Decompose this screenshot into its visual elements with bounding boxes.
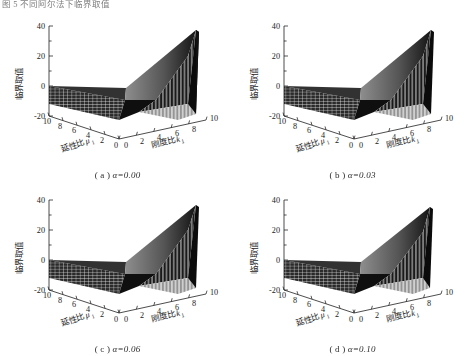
x-tick-6: 6 xyxy=(307,126,311,135)
y-axis-title-sub: 1 xyxy=(181,312,185,319)
x-axis-title-sub: 1 xyxy=(91,313,96,320)
y-tick-2: 2 xyxy=(375,137,379,146)
x-axis-title-sub: 1 xyxy=(91,139,96,146)
z-tick-40: 40 xyxy=(37,196,45,205)
y-tick-0: 0 xyxy=(359,315,363,324)
z-tick-40: 40 xyxy=(272,22,280,31)
caption-c-label: ( c ) xyxy=(95,344,111,354)
y-axis-title-group: 刚度比 k 1 xyxy=(150,133,185,152)
y-axis-title-sub: 1 xyxy=(416,312,420,319)
y-axis-title-group: 刚度比 k 1 xyxy=(385,133,420,152)
y-tick-0: 0 xyxy=(124,315,128,324)
x-tick-6: 6 xyxy=(72,300,76,309)
y-tick-8: 8 xyxy=(427,299,431,308)
surface-mesh-c xyxy=(49,205,199,294)
y-tick-10: 10 xyxy=(210,114,218,123)
surface-plot-d: 40 20 0 -20 临界取值 10 8 6 4 2 0 xyxy=(235,182,470,340)
z-tick-0: 0 xyxy=(41,82,45,91)
subplot-d: 40 20 0 -20 临界取值 10 8 6 4 2 0 xyxy=(235,182,470,356)
x-tick-0: 0 xyxy=(349,141,353,150)
x-tick-2: 2 xyxy=(100,310,104,319)
z-tick-0: 0 xyxy=(276,256,280,265)
caption-a-param: α=0.00 xyxy=(113,170,141,180)
caption-d: ( d ) α=0.10 xyxy=(235,344,470,354)
x-tick-8: 8 xyxy=(293,296,297,305)
x-tick-2: 2 xyxy=(335,136,339,145)
y-axis-title-sub: 1 xyxy=(181,138,185,145)
z-tick-20: 20 xyxy=(37,226,45,235)
x-tick-10: 10 xyxy=(43,291,51,300)
surface-plot-a: 40 20 0 -20 临界取值 10 8 6 4 2 xyxy=(0,8,235,166)
y-tick-0: 0 xyxy=(124,141,128,150)
caption-d-label: ( d ) xyxy=(329,344,345,354)
x-axis-title-sub: 1 xyxy=(326,139,331,146)
caption-d-param: α=0.10 xyxy=(348,344,376,354)
x-tick-0: 0 xyxy=(114,141,118,150)
subplot-b: 40 20 0 -20 临界取值 10 8 6 4 2 0 xyxy=(235,8,470,182)
surface-mesh-b xyxy=(284,30,434,120)
y-axis-title-group: 刚度比 k 1 xyxy=(150,307,185,326)
x-axis-title-sub: 1 xyxy=(326,313,331,320)
y-tick-2: 2 xyxy=(375,311,379,320)
y-tick-0: 0 xyxy=(359,141,363,150)
z-axis-title: 临界取值 xyxy=(14,241,24,274)
z-axis-title: 临界取值 xyxy=(14,67,24,100)
surface-mesh-a xyxy=(49,30,199,120)
x-tick-10: 10 xyxy=(278,291,286,300)
x-axis-title-cn: 延性比 xyxy=(295,311,321,328)
x-axis-title-cn: 延性比 xyxy=(295,137,321,154)
y-axis-title-cn: 刚度比 xyxy=(385,309,411,324)
x-axis-title-cn: 延性比 xyxy=(60,137,86,154)
y-tick-2: 2 xyxy=(140,311,144,320)
surface-plot-b: 40 20 0 -20 临界取值 10 8 6 4 2 0 xyxy=(235,8,470,166)
x-tick-6: 6 xyxy=(307,300,311,309)
subplot-a: 40 20 0 -20 临界取值 10 8 6 4 2 xyxy=(0,8,235,182)
y-tick-10: 10 xyxy=(445,114,453,123)
z-axis-title: 临界取值 xyxy=(249,67,259,100)
y-axis-title-sub: 1 xyxy=(416,138,420,145)
caption-b: ( b ) α=0.03 xyxy=(235,170,470,180)
z-tick-20: 20 xyxy=(37,52,45,61)
surface-plot-c: 40 20 0 -20 临界取值 10 8 6 4 2 0 xyxy=(0,182,235,340)
y-tick-10: 10 xyxy=(445,288,453,297)
caption-c-param: α=0.06 xyxy=(113,344,141,354)
y-axis-title-group: 刚度比 k 1 xyxy=(385,307,420,326)
x-tick-8: 8 xyxy=(58,122,62,131)
z-axis-title: 临界取值 xyxy=(249,241,259,274)
x-tick-10: 10 xyxy=(278,117,286,126)
x-tick-6: 6 xyxy=(72,126,76,135)
y-tick-8: 8 xyxy=(192,125,196,134)
y-axis-title-cn: 刚度比 xyxy=(150,135,176,150)
z-tick-40: 40 xyxy=(272,196,280,205)
caption-b-param: α=0.03 xyxy=(348,170,376,180)
x-tick-0: 0 xyxy=(114,315,118,324)
y-tick-2: 2 xyxy=(140,137,144,146)
surface-mesh-d xyxy=(284,207,433,294)
z-tick-40: 40 xyxy=(37,22,45,31)
y-tick-8: 8 xyxy=(427,125,431,134)
y-axis-title-cn: 刚度比 xyxy=(385,135,411,150)
z-tick-20: 20 xyxy=(272,226,280,235)
figure-page: 图 5 不同阿尔法下临界取值 xyxy=(0,0,470,356)
subplot-grid: 40 20 0 -20 临界取值 10 8 6 4 2 xyxy=(0,8,470,356)
x-tick-8: 8 xyxy=(58,296,62,305)
z-tick-0: 0 xyxy=(41,256,45,265)
x-axis-title-cn: 延性比 xyxy=(60,311,86,328)
x-tick-0: 0 xyxy=(349,315,353,324)
caption-b-label: ( b ) xyxy=(329,170,345,180)
x-tick-8: 8 xyxy=(293,122,297,131)
z-tick-20: 20 xyxy=(272,52,280,61)
x-tick-2: 2 xyxy=(335,310,339,319)
caption-a: ( a ) α=0.00 xyxy=(0,170,235,180)
x-tick-10: 10 xyxy=(43,117,51,126)
z-tick-0: 0 xyxy=(276,82,280,91)
y-tick-8: 8 xyxy=(192,299,196,308)
y-axis-title-cn: 刚度比 xyxy=(150,309,176,324)
caption-c: ( c ) α=0.06 xyxy=(0,344,235,354)
subplot-c: 40 20 0 -20 临界取值 10 8 6 4 2 0 xyxy=(0,182,235,356)
caption-a-label: ( a ) xyxy=(95,170,111,180)
x-tick-2: 2 xyxy=(100,136,104,145)
y-tick-10: 10 xyxy=(210,288,218,297)
